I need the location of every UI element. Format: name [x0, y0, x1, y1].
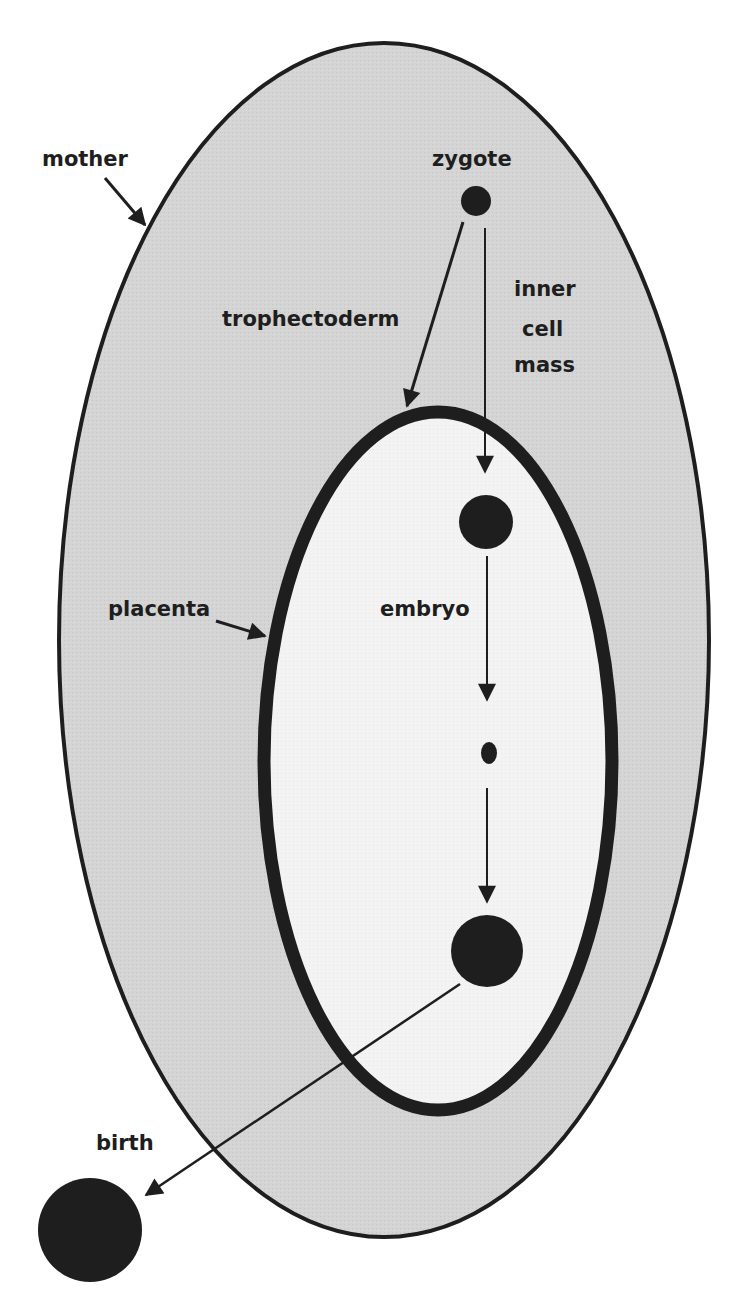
placenta-label: placenta: [108, 597, 210, 621]
mother-arrow: [105, 178, 145, 225]
inner-cell-mass-label-line2: cell: [522, 317, 563, 341]
embryo-label: embryo: [380, 597, 470, 621]
birth-node: [38, 1178, 142, 1282]
birth-label: birth: [96, 1131, 154, 1155]
zygote-node: [461, 186, 491, 216]
placenta-region: [264, 412, 612, 1110]
embryo-development-diagram: mother zygote trophectoderm inner cell m…: [0, 0, 743, 1312]
trophectoderm-label: trophectoderm: [222, 307, 399, 331]
mother-label: mother: [42, 147, 129, 171]
inner-cell-mass-label-line1: inner: [514, 277, 576, 301]
embryo-small-node: [481, 742, 497, 764]
inner-cell-mass-label-line3: mass: [514, 353, 575, 377]
embryo-large-node: [451, 915, 523, 987]
zygote-label: zygote: [432, 147, 512, 171]
inner-cell-mass-node: [459, 495, 513, 549]
